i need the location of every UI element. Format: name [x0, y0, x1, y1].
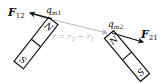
- magnet-1: N S: [14, 17, 58, 69]
- separation-vector-label: r = r2 − r1: [52, 32, 94, 42]
- force-f12-label: F12: [7, 6, 25, 20]
- magnet-force-diagram: N S N S F12 qm1 qm2 F21 r = r2 − r1: [0, 0, 165, 83]
- diagram-canvas: N S N S F12 qm1 qm2 F21 r = r2 − r1: [0, 0, 165, 83]
- pole-charge-qm1-label: qm1: [46, 5, 61, 16]
- force-f21-label: F21: [140, 28, 158, 42]
- pole-charge-qm2-label: qm2: [108, 19, 123, 30]
